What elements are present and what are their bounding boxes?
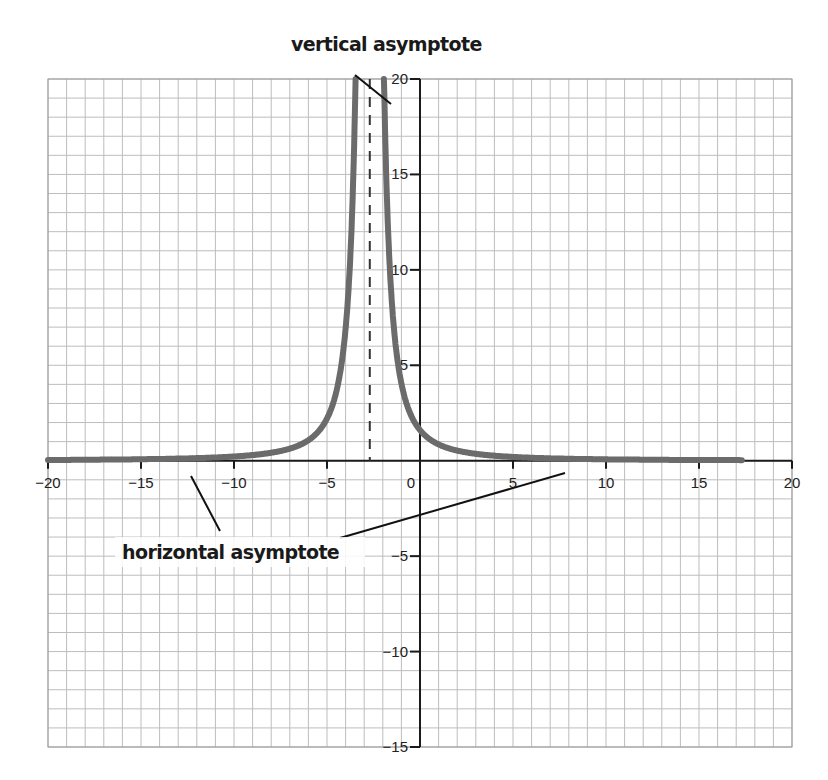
y-tick-label: −10 (383, 643, 408, 660)
x-tick-label: −15 (128, 474, 153, 491)
y-tick-label: −5 (391, 547, 408, 564)
x-tick-label: −20 (35, 474, 60, 491)
x-tick-label: 20 (784, 474, 801, 491)
x-tick-label: 15 (691, 474, 708, 491)
vertical-asymptote-label: vertical asymptote (291, 33, 482, 55)
x-tick-label: −5 (318, 474, 335, 491)
x-tick-label: 0 (407, 474, 415, 491)
y-tick-label: −15 (383, 738, 408, 755)
y-tick-label: 15 (391, 165, 408, 182)
y-tick-label: 20 (391, 70, 408, 87)
chart: −20−15−10−5051015202015105−5−10−15 verti… (0, 0, 828, 780)
y-tick-label: 10 (391, 261, 408, 278)
x-tick-label: 10 (598, 474, 615, 491)
x-tick-label: −10 (221, 474, 246, 491)
horizontal-asymptote-label: horizontal asymptote (122, 541, 339, 563)
